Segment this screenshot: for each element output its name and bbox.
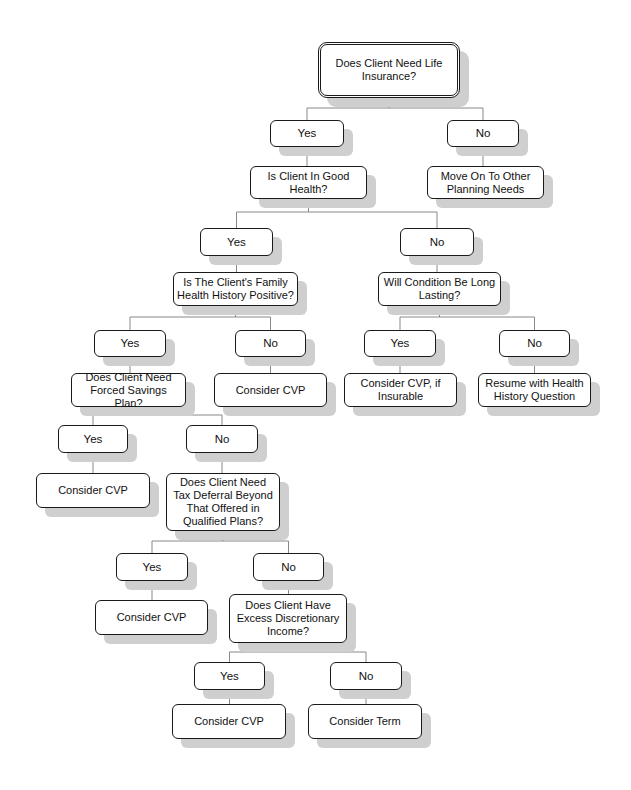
node-no3b: No (499, 330, 570, 357)
node-label: Resume with Health History Question (482, 377, 587, 403)
node-label: Yes (227, 236, 246, 249)
node-label: Yes (143, 561, 162, 574)
node-label: Yes (84, 433, 103, 446)
node-taxdeferral: Does Client Need Tax Deferral Beyond Tha… (166, 473, 280, 531)
node-moveon: Move On To Other Planning Needs (427, 166, 544, 199)
node-label: Is Client In Good Health? (254, 170, 363, 196)
node-forced: Does Client Need Forced Savings Plan? (71, 373, 186, 407)
node-label: Consider CVP (194, 715, 264, 728)
node-health: Is Client In Good Health? (250, 166, 367, 199)
node-yes4: Yes (58, 425, 128, 453)
node-label: Consider Term (329, 715, 400, 728)
node-cvp3: Consider CVP (95, 600, 208, 635)
node-label: Consider CVP (58, 484, 128, 497)
node-label: No (215, 433, 230, 446)
node-root: Does Client Need Life Insurance? (318, 42, 460, 98)
node-cvpins: Consider CVP, if Insurable (344, 373, 457, 407)
node-label: Will Condition Be Long Lasting? (382, 276, 497, 302)
node-no2: No (400, 228, 474, 256)
node-label: Consider CVP (117, 611, 187, 624)
node-cvp2: Consider CVP (36, 473, 150, 508)
node-label: Consider CVP, if Insurable (348, 377, 453, 403)
node-label: No (263, 337, 278, 350)
decision-tree-canvas: Does Client Need Life Insurance?YesNoIs … (0, 0, 631, 790)
node-yes3b: Yes (364, 330, 436, 357)
node-yes2: Yes (200, 228, 273, 256)
node-label: Yes (298, 127, 317, 140)
node-label: Does Client Have Excess Discretionary In… (233, 599, 343, 638)
node-label: No (476, 127, 491, 140)
node-yes3a: Yes (94, 330, 166, 357)
node-no6: No (330, 662, 402, 690)
node-no4: No (186, 425, 258, 453)
node-no1: No (447, 120, 519, 147)
node-label: No (281, 561, 296, 574)
node-label: No (359, 670, 374, 683)
node-label: Yes (391, 337, 410, 350)
node-label: Is The Client's Family Health History Po… (177, 276, 294, 302)
node-label: Does Client Need Life Insurance? (324, 57, 454, 83)
node-label: Does Client Need Tax Deferral Beyond Tha… (170, 476, 276, 528)
node-label: Does Client Need Forced Savings Plan? (75, 371, 182, 410)
node-cvp4: Consider CVP (172, 704, 286, 739)
node-excess: Does Client Have Excess Discretionary In… (229, 594, 347, 643)
node-no3a: No (235, 330, 306, 357)
node-yes1: Yes (270, 120, 344, 147)
node-longlasting: Will Condition Be Long Lasting? (378, 272, 501, 306)
node-label: No (430, 236, 445, 249)
node-label: Yes (121, 337, 140, 350)
node-resume: Resume with Health History Question (478, 373, 591, 407)
node-no5: No (253, 553, 324, 581)
node-cvp1: Consider CVP (214, 373, 327, 407)
node-label: Yes (220, 670, 239, 683)
node-yes5: Yes (116, 553, 188, 581)
node-family: Is The Client's Family Health History Po… (173, 272, 298, 306)
node-term: Consider Term (308, 704, 422, 739)
node-label: No (527, 337, 542, 350)
node-label: Move On To Other Planning Needs (431, 170, 540, 196)
node-label: Consider CVP (236, 384, 306, 397)
node-yes6: Yes (194, 662, 265, 690)
